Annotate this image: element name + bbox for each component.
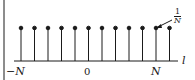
stems-group <box>19 26 171 61</box>
stem-dot <box>141 26 145 30</box>
stem-dot <box>46 26 50 30</box>
stem-dot <box>127 26 131 30</box>
stem-dot <box>33 26 37 30</box>
fraction-denominator: N <box>174 17 181 25</box>
axis-label-l: l <box>182 55 186 66</box>
stem-dot <box>87 26 91 30</box>
tick-label-n: N <box>151 66 161 77</box>
annotation-fraction: 1 N <box>174 8 181 25</box>
stem-dot <box>114 26 118 30</box>
tick-label-minus-n: −N <box>6 66 25 77</box>
tick-label-zero: 0 <box>84 67 90 77</box>
stem-dot <box>168 26 172 30</box>
stem-dot <box>73 26 77 30</box>
stem-dot <box>19 26 23 30</box>
stem-dot <box>100 26 104 30</box>
stem-dot <box>60 26 64 30</box>
stem-plot <box>0 0 195 80</box>
